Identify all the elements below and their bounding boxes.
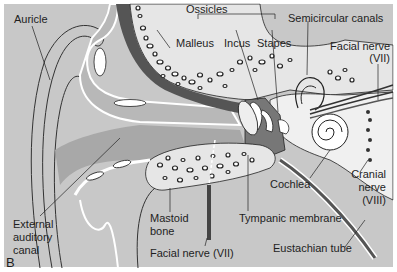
label-cranial-nerve-2: nerve xyxy=(330,181,386,193)
label-cochlea: Cochlea xyxy=(270,178,310,190)
label-external-canal-1: External xyxy=(13,218,53,230)
label-ossicles: Ossicles xyxy=(186,3,228,15)
label-stapes: Stapes xyxy=(257,37,291,49)
panel-letter: B xyxy=(6,255,15,270)
label-mastoid-2: bone xyxy=(150,225,174,237)
label-external-canal-3: canal xyxy=(13,244,39,256)
label-mastoid-1: Mastoid xyxy=(150,212,189,224)
label-facial-nerve-top-2: (VII) xyxy=(330,52,390,64)
label-cranial-nerve-3: (VIII) xyxy=(330,194,386,206)
label-eustachian-tube: Eustachian tube xyxy=(273,242,352,254)
label-auricle: Auricle xyxy=(14,13,48,25)
label-facial-nerve-bottom: Facial nerve (VII) xyxy=(150,247,234,259)
label-incus: Incus xyxy=(224,37,250,49)
ear-anatomy-figure: Auricle Ossicles Malleus Incus Stapes Se… xyxy=(0,0,397,272)
label-external-canal-2: auditory xyxy=(13,231,52,243)
label-cranial-nerve-1: Cranial xyxy=(330,168,386,180)
label-tympanic-membrane: Tympanic membrane xyxy=(239,212,342,224)
label-semicircular-canals: Semicircular canals xyxy=(288,12,383,24)
label-malleus: Malleus xyxy=(176,37,214,49)
label-facial-nerve-top-1: Facial nerve xyxy=(330,40,390,52)
